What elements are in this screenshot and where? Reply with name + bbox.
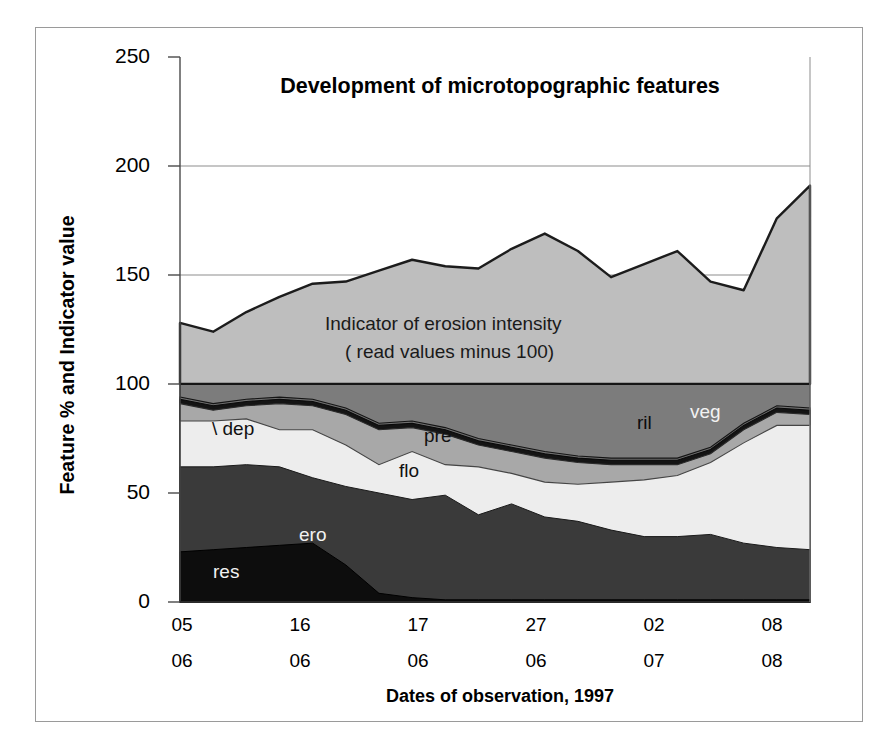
xtick-month-5: 07 bbox=[624, 650, 684, 672]
series-label-res: res bbox=[213, 561, 239, 583]
xtick-day-5: 02 bbox=[624, 614, 684, 636]
y-axis-title-wrapper: Feature % and Indicator value bbox=[47, 130, 87, 580]
ytick-label-50: 50 bbox=[80, 480, 150, 504]
series-label-ero: ero bbox=[299, 524, 326, 546]
xtick-day-2: 16 bbox=[270, 614, 330, 636]
xtick-month-4: 06 bbox=[506, 650, 566, 672]
indicator-note-line-1: Indicator of erosion intensity bbox=[325, 313, 562, 335]
series-label-flo: flo bbox=[399, 460, 419, 482]
figure-page: Development of microtopographic features… bbox=[0, 0, 895, 752]
series-label-ril: ril bbox=[637, 412, 652, 434]
indicator-note-line-2: ( read values minus 100) bbox=[345, 341, 554, 363]
ytick-label-250: 250 bbox=[80, 44, 150, 68]
ytick-label-100: 100 bbox=[80, 371, 150, 395]
xtick-day-6: 08 bbox=[742, 614, 802, 636]
xtick-day-3: 17 bbox=[388, 614, 448, 636]
x-axis-title: Dates of observation, 1997 bbox=[180, 686, 820, 707]
xtick-day-4: 27 bbox=[506, 614, 566, 636]
series-label-pre: pre bbox=[424, 425, 451, 447]
series-label-veg: veg bbox=[690, 401, 721, 423]
ytick-label-0: 0 bbox=[80, 589, 150, 613]
chart-title: Development of microtopographic features bbox=[200, 74, 800, 99]
ytick-label-150: 150 bbox=[80, 262, 150, 286]
y-axis-title: Feature % and Indicator value bbox=[56, 215, 79, 494]
xtick-month-6: 08 bbox=[742, 650, 802, 672]
xtick-day-1: 05 bbox=[152, 614, 212, 636]
xtick-month-2: 06 bbox=[270, 650, 330, 672]
ytick-label-200: 200 bbox=[80, 153, 150, 177]
xtick-month-3: 06 bbox=[388, 650, 448, 672]
xtick-month-1: 06 bbox=[152, 650, 212, 672]
series-label-dep: \ dep bbox=[212, 418, 254, 440]
y-axis-ticks bbox=[168, 57, 180, 602]
